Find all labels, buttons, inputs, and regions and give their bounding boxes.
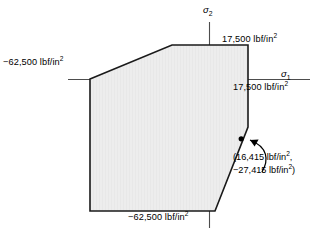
label-sigma1-tensile-exponent: 2 bbox=[284, 80, 288, 87]
label-sigma2-compressive-text: −62,500 lbf/in bbox=[128, 212, 185, 222]
label-sigma2-tensile-exponent: 2 bbox=[273, 32, 277, 39]
label-sigma2-tensile-text: 17,500 lbf/in bbox=[222, 34, 273, 44]
sigma1-axis-label: σ1 bbox=[281, 68, 291, 79]
annotation-line-1-tail: , bbox=[290, 152, 293, 162]
label-sigma1-tensile-text: 17,500 lbf/in bbox=[233, 82, 284, 92]
label-sigma2-tensile-limit: 17,500 lbf/in2 bbox=[222, 34, 277, 46]
label-sigma1-compressive-limit: −62,500 lbf/in2 bbox=[3, 57, 64, 69]
sigma2-subscript: 2 bbox=[209, 10, 213, 17]
label-sigma2-compressive-exponent: 2 bbox=[185, 210, 189, 217]
annotation-line-1: (16,415 lbf/in2, bbox=[233, 151, 295, 164]
annotation-line-2-text: −27,415 lbf/in bbox=[233, 165, 288, 175]
label-sigma1-compressive-text: −62,500 lbf/in bbox=[3, 57, 60, 67]
sigma2-axis-label: σ2 bbox=[203, 4, 213, 15]
failure-envelope-polygon bbox=[90, 45, 248, 211]
annotation-line-1-text: (16,415 lbf/in bbox=[233, 152, 286, 162]
annotation-line-2-tail: ) bbox=[292, 165, 295, 175]
load-point-annotation: (16,415 lbf/in2, −27,415 lbf/in2) bbox=[233, 151, 295, 176]
label-sigma2-compressive-limit: −62,500 lbf/in2 bbox=[128, 212, 189, 224]
failure-envelope-figure: σ2 σ1 17,500 lbf/in2 17,500 lbf/in2 −62,… bbox=[0, 0, 326, 240]
label-sigma1-tensile-limit: 17,500 lbf/in2 bbox=[233, 82, 288, 94]
annotation-line-2: −27,415 lbf/in2) bbox=[233, 164, 295, 177]
label-sigma1-compressive-exponent: 2 bbox=[60, 55, 64, 62]
data-point-marker bbox=[239, 136, 244, 141]
